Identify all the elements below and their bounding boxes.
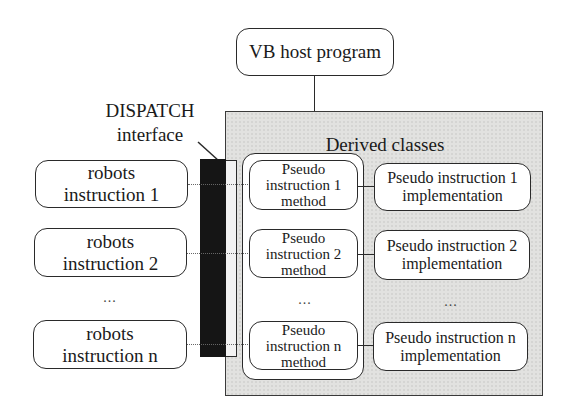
impl-link-1 xyxy=(358,186,374,187)
method-n-box: Pseudo instruction n method xyxy=(249,321,358,370)
method-2-line3: method xyxy=(281,262,326,278)
robot-instruction-1-box: robots instruction 1 xyxy=(35,160,188,208)
host-connector-line xyxy=(314,76,315,112)
dispatch-interface-strip xyxy=(225,160,237,357)
dispatch-subtitle: interface xyxy=(96,124,204,146)
dispatch-title: DISPATCH xyxy=(96,100,204,122)
method-2-line2: instruction 2 xyxy=(266,246,341,262)
method-n-line3: method xyxy=(281,354,326,370)
dispatch-interface-bar xyxy=(200,159,226,357)
implementation-n-box: Pseudo instruction n implementation xyxy=(373,322,528,371)
robot-instruction-1-line2: instruction 1 xyxy=(64,184,160,206)
implementation-n-line2: implementation xyxy=(400,347,500,365)
implementation-ellipsis: ... xyxy=(436,294,466,310)
robot-instruction-2-line2: instruction 2 xyxy=(63,253,159,275)
robot-instruction-2-box: robots instruction 2 xyxy=(34,228,187,277)
robot-ellipsis: ... xyxy=(95,290,125,306)
robot-instruction-n-line1: robots xyxy=(86,323,134,345)
vb-host-program-label: VB host program xyxy=(249,41,381,63)
method-n-line2: instruction n xyxy=(266,338,341,354)
method-1-line1: Pseudo xyxy=(282,161,325,177)
impl-link-2 xyxy=(358,254,374,255)
method-2-line1: Pseudo xyxy=(282,230,325,246)
method-1-line3: method xyxy=(281,193,326,209)
implementation-1-box: Pseudo instruction 1 implementation xyxy=(374,163,531,211)
implementation-2-box: Pseudo instruction 2 implementation xyxy=(374,230,530,280)
robot-instruction-n-box: robots instruction n xyxy=(33,320,187,369)
method-2-box: Pseudo instruction 2 method xyxy=(249,229,358,278)
robot-instruction-1-line1: robots xyxy=(88,162,136,184)
dispatch-link-n xyxy=(187,344,250,345)
implementation-2-line1: Pseudo instruction 2 xyxy=(387,237,518,255)
robot-instruction-n-line2: instruction n xyxy=(62,345,158,367)
method-ellipsis: ... xyxy=(290,292,320,308)
robot-instruction-2-line1: robots xyxy=(87,231,135,253)
implementation-n-line1: Pseudo instruction n xyxy=(385,329,516,347)
method-1-box: Pseudo instruction 1 method xyxy=(249,160,358,210)
dispatch-link-2 xyxy=(187,253,250,254)
dispatch-link-1 xyxy=(188,184,250,185)
implementation-1-line1: Pseudo instruction 1 xyxy=(387,169,518,187)
method-n-line1: Pseudo xyxy=(282,322,325,338)
method-1-line2: instruction 1 xyxy=(266,177,341,193)
implementation-1-line2: implementation xyxy=(402,187,502,205)
impl-link-n xyxy=(358,345,374,346)
vb-host-program-box: VB host program xyxy=(236,28,394,76)
implementation-2-line2: implementation xyxy=(402,255,502,273)
